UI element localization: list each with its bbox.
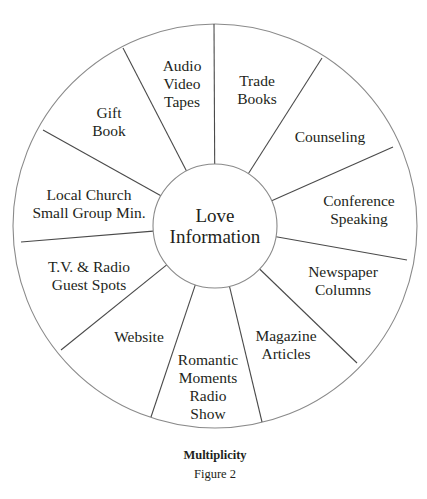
figure-number: Figure 2 [194,467,236,482]
segment-label: Website [114,328,164,346]
segment-label: Gift Book [92,104,126,140]
multiplicity-wheel-diagram [0,0,427,499]
figure-title: Multiplicity [183,448,246,463]
segment-label: Newspaper Columns [308,263,378,299]
spoke-line [214,24,215,164]
segment-label: Counseling [295,128,366,146]
segment-label: Trade Books [237,72,277,108]
spoke-line [21,231,153,242]
segment-label: Conference Speaking [323,192,394,228]
segment-label: T.V. & Radio Guest Spots [48,258,130,294]
spoke-line [276,237,407,260]
segment-label: Audio Video Tapes [163,57,202,111]
segment-label: Romantic Moments Radio Show [178,351,238,423]
segment-label: Magazine Articles [255,327,316,363]
hub-label: Love Information [170,205,261,247]
segment-label: Local Church Small Group Min. [32,186,145,222]
